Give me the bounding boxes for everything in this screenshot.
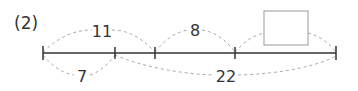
label-8: 8 bbox=[190, 21, 200, 40]
arc-11-left bbox=[43, 30, 92, 52]
arc-7-right bbox=[90, 55, 115, 75]
problem-label: (2) bbox=[14, 13, 38, 33]
label-22: 22 bbox=[216, 67, 236, 86]
label-7: 7 bbox=[77, 67, 87, 86]
arc-box-left bbox=[235, 33, 264, 52]
arc-7-left bbox=[43, 55, 74, 75]
arc-8-left bbox=[155, 30, 188, 52]
arc-22-left bbox=[115, 55, 214, 75]
arc-8-right bbox=[202, 30, 235, 52]
arc-22-right bbox=[238, 56, 336, 75]
arc-11-right bbox=[112, 30, 155, 52]
number-line-diagram: (2) 11 8 7 22 bbox=[0, 0, 358, 91]
label-11: 11 bbox=[92, 22, 112, 41]
answer-box[interactable] bbox=[264, 11, 308, 45]
arc-box-right bbox=[308, 33, 336, 52]
